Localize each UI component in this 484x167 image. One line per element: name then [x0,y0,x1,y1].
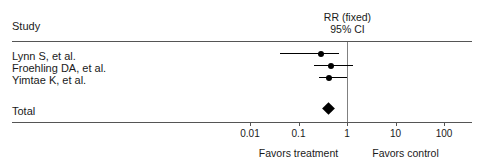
study-column-header: Study [12,20,40,32]
effect-measure-header-line1: RR (fixed) [280,11,415,23]
null-effect-line [347,42,348,122]
favors-control-label: Favors control [347,147,464,159]
summary-diamond-marker [322,102,335,115]
axis-tick-label: 1 [327,128,367,139]
total-row-label: Total [12,105,35,117]
axis-baseline [12,122,472,123]
axis-tick-label: 10 [376,128,416,139]
effect-estimate-marker [318,51,324,57]
favors-treatment-label: Favors treatment [240,147,357,159]
axis-tick-label: 100 [424,128,464,139]
study-label-yimtae-k: Yimtae K, et al. [12,74,86,86]
effect-measure-header: RR (fixed) 95% CI [280,11,415,35]
confidence-interval-line [280,53,339,54]
effect-estimate-marker [326,75,332,81]
study-label-lynn-s: Lynn S, et al. [12,50,76,62]
axis-tick [444,122,445,126]
axis-tick [396,122,397,126]
study-label-froehling-da: Froehling DA, et al. [12,62,106,74]
axis-tick-label: 0.1 [279,128,319,139]
forest-plot: Study RR (fixed) 95% CI Lynn S, et al. F… [0,0,484,167]
effect-measure-header-line2: 95% CI [280,23,415,35]
axis-tick [347,122,348,126]
confidence-interval-line [319,77,347,78]
axis-tick [250,122,251,126]
axis-tick-label: 0.01 [230,128,270,139]
header-divider [12,41,472,42]
axis-tick [299,122,300,126]
effect-estimate-marker [328,63,334,69]
